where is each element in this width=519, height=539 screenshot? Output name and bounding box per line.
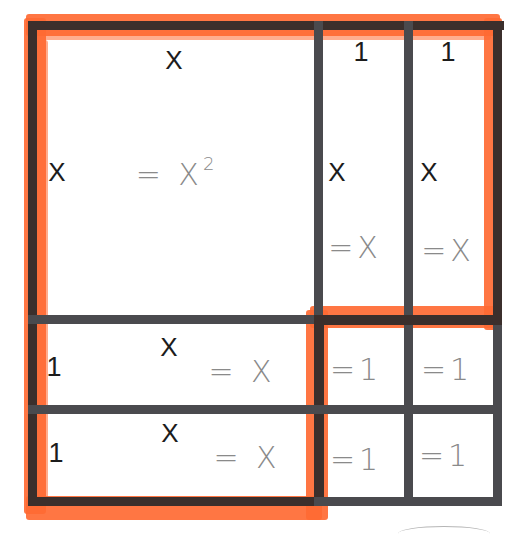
highlight-inner-left bbox=[36, 40, 48, 500]
grid-line-right-upper bbox=[493, 21, 502, 327]
big-square-side-label: X bbox=[48, 159, 65, 185]
right-col-2-side-label: X bbox=[420, 159, 437, 185]
grid-line-top bbox=[28, 21, 504, 30]
bottom-row-1-side-label: 1 bbox=[46, 354, 61, 381]
bottom-row-2-top-label: X bbox=[161, 420, 178, 446]
grid-line-h1-right bbox=[314, 315, 502, 325]
highlight-inner-top bbox=[36, 30, 491, 40]
right-col-1-area: =X bbox=[328, 233, 382, 263]
grid-line-bottom-right bbox=[314, 497, 502, 506]
grid-line-h2 bbox=[28, 405, 502, 414]
grid-line-left bbox=[28, 21, 37, 506]
grid-line-bottom bbox=[28, 497, 324, 506]
bottom-row-2-area: = X bbox=[213, 443, 280, 473]
bottom-row-1-area: = X bbox=[208, 357, 275, 387]
big-square-area-exponent: 2 bbox=[203, 153, 214, 174]
unit-square-2-area: =1 bbox=[421, 355, 473, 385]
grid-line-v2 bbox=[404, 21, 413, 506]
unit-square-4-area: =1 bbox=[419, 441, 471, 471]
pencil-smudge bbox=[398, 526, 490, 539]
area-model-diagram: X X = X2 1 X =X 1 X =X 1 X = X 1 X = X =… bbox=[0, 0, 519, 539]
right-col-2-top-label: 1 bbox=[440, 39, 455, 66]
big-square-top-label: X bbox=[165, 47, 182, 73]
right-col-1-top-label: 1 bbox=[353, 39, 368, 66]
right-col-1-side-label: X bbox=[328, 159, 345, 185]
unit-square-3-area: =1 bbox=[330, 445, 382, 475]
big-square-area-text: = X bbox=[136, 157, 203, 192]
bottom-row-1-top-label: X bbox=[160, 334, 177, 360]
unit-square-1-area: =1 bbox=[330, 355, 382, 385]
bottom-row-2-side-label: 1 bbox=[48, 440, 63, 467]
right-col-2-area: =X bbox=[421, 236, 475, 266]
big-square-area: = X2 bbox=[136, 159, 215, 190]
